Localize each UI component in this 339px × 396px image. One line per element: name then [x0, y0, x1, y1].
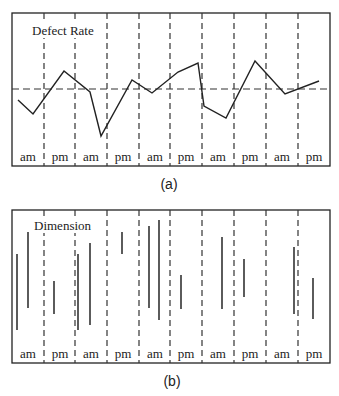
dimension-range-bars: [17, 220, 313, 330]
svg-text:pm: pm: [52, 149, 69, 164]
svg-text:am: am: [274, 149, 290, 164]
svg-text:pm: pm: [115, 346, 132, 361]
svg-text:am: am: [83, 346, 99, 361]
svg-text:am: am: [20, 346, 36, 361]
panel-b: Dimension am pm am pm am pm am pm am: [12, 210, 330, 389]
svg-text:am: am: [83, 149, 99, 164]
svg-text:pm: pm: [178, 149, 195, 164]
panel-a: Defect Rate am pm am pm am pm am pm am p…: [12, 13, 330, 192]
svg-text:pm: pm: [306, 346, 323, 361]
svg-text:pm: pm: [52, 346, 69, 361]
svg-text:am: am: [147, 346, 163, 361]
svg-text:pm: pm: [242, 149, 259, 164]
figure: Defect Rate am pm am pm am pm am pm am p…: [0, 0, 339, 396]
svg-text:am: am: [210, 346, 226, 361]
svg-text:pm: pm: [306, 149, 323, 164]
panel-a-title: Defect Rate: [32, 23, 94, 38]
defect-rate-line: [18, 61, 319, 136]
svg-text:am: am: [20, 149, 36, 164]
svg-text:pm: pm: [242, 346, 259, 361]
panel-a-slot-labels: am pm am pm am pm am pm am pm: [20, 149, 322, 164]
panel-a-caption: (a): [160, 176, 177, 192]
svg-text:pm: pm: [115, 149, 132, 164]
svg-text:am: am: [210, 149, 226, 164]
panel-b-title: Dimension: [34, 218, 92, 233]
svg-text:am: am: [274, 346, 290, 361]
panel-b-slot-labels: am pm am pm am pm am pm am pm: [20, 346, 322, 361]
svg-text:pm: pm: [178, 346, 195, 361]
svg-text:am: am: [147, 149, 163, 164]
panel-b-caption: (b): [163, 373, 180, 389]
